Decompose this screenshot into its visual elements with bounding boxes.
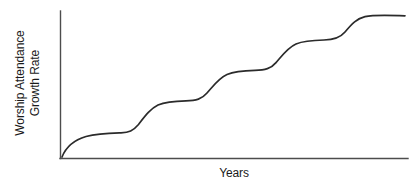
chart-figure: Worship Attendance Growth Rate Years	[0, 0, 419, 194]
chart-plot-area	[0, 0, 419, 194]
x-axis-label: Years	[60, 166, 408, 180]
growth-curve	[62, 15, 405, 157]
